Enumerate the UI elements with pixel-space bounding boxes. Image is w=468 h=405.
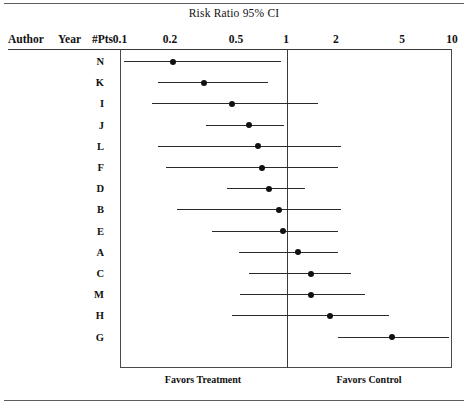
point-estimate-D [266,186,272,192]
point-estimate-I [229,101,235,107]
point-estimate-M [308,292,314,298]
axis-tick-5: 5 [399,33,405,45]
row-label-G: G [0,331,104,342]
point-estimate-K [201,80,207,86]
point-estimate-L [255,143,261,149]
row-label-B: B [0,204,104,215]
point-estimate-J [246,122,252,128]
ci-line-I [152,103,318,104]
column-header-year: Year [58,33,81,45]
page-rule-bottom [4,400,464,401]
row-label-L: L [0,140,104,151]
axis-tick-1: 1 [283,33,289,45]
header-underline [8,49,120,50]
ci-line-J [206,125,284,126]
point-estimate-N [170,59,176,65]
ci-line-F [166,167,337,168]
row-label-K: K [0,77,104,88]
point-estimate-B [276,207,282,213]
axis-tick-0.1: 0.1 [113,33,127,45]
row-label-J: J [0,119,104,130]
row-label-N: N [0,56,104,67]
favors-control-label: Favors Control [336,374,401,385]
point-estimate-H [327,313,333,319]
point-estimate-C [308,271,314,277]
row-label-F: F [0,162,104,173]
ci-line-M [240,294,365,295]
favors-treatment-label: Favors Treatment [165,374,241,385]
point-estimate-A [295,249,301,255]
point-estimate-F [259,165,265,171]
row-label-H: H [0,310,104,321]
ci-line-A [239,252,338,253]
axis-tick-0.2: 0.2 [163,33,177,45]
ci-line-N [124,61,281,62]
ci-line-H [232,315,390,316]
column-header-author: Author [8,33,44,45]
row-label-I: I [0,98,104,109]
point-estimate-E [280,228,286,234]
row-label-E: E [0,225,104,236]
ci-line-E [212,231,337,232]
point-estimate-G [389,334,395,340]
ci-line-B [177,209,341,210]
axis-tick-10: 10 [446,33,458,45]
page-title: Risk Ratio 95% CI [0,7,468,19]
page-rule-top [4,3,464,4]
axis-tick-0.5: 0.5 [229,33,243,45]
ci-line-C [249,273,350,274]
row-label-D: D [0,183,104,194]
ci-line-L [158,146,341,147]
axis-tick-2: 2 [333,33,339,45]
row-label-M: M [0,289,104,300]
row-label-C: C [0,268,104,279]
column-header-pts: #Pts [92,33,113,45]
row-label-A: A [0,246,104,257]
ci-line-K [158,82,268,83]
